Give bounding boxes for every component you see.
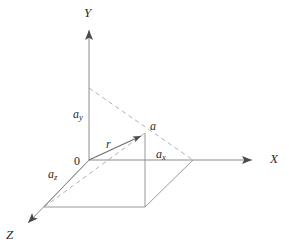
component-ay-label: ay	[73, 108, 83, 122]
vector-r-label: r	[106, 138, 111, 150]
origin-label: 0	[74, 155, 80, 167]
dashed-line-y-to-x-vertex	[89, 88, 193, 160]
y-axis-label: Y	[84, 6, 91, 19]
dashed-line-z-corner-to-a	[44, 133, 145, 207]
component-ax-sub: x	[162, 152, 166, 162]
construction-lines	[44, 88, 193, 207]
component-ax-label: ax	[156, 148, 166, 162]
vector-r-arrow	[89, 136, 141, 160]
vector-components-diagram: Y X Z 0 a r ay ax az	[0, 0, 289, 249]
point-a-label: a	[150, 120, 156, 132]
component-az-sub: z	[54, 172, 57, 182]
x-axis-label: X	[270, 152, 278, 165]
z-axis-line	[28, 160, 89, 223]
axis-lines	[28, 30, 252, 223]
component-az-label: az	[48, 168, 57, 182]
diagram-canvas	[0, 0, 289, 249]
base-edge-right	[145, 160, 193, 207]
z-axis-label: Z	[6, 228, 13, 241]
component-ay-sub: y	[79, 112, 83, 122]
